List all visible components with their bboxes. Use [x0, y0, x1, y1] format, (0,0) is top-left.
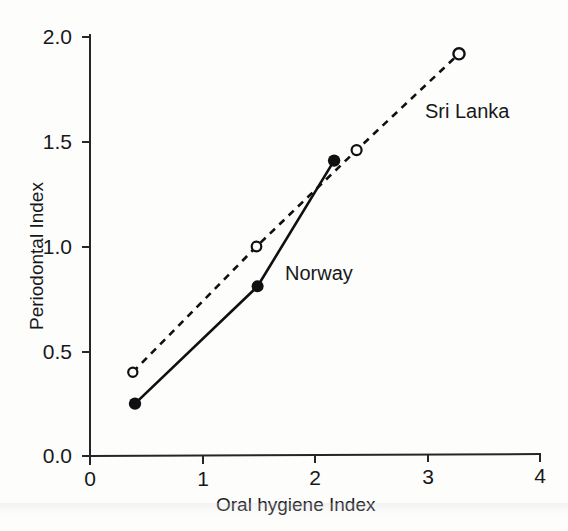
y-tick-label-0-5: 0.5 [14, 340, 72, 364]
y-tick-label-1-5: 1.5 [14, 130, 72, 154]
y-axis-title: Periodontal Index [26, 182, 48, 330]
data-point-norway-3 [328, 154, 340, 166]
series-annotation-sri-lanka: Sri Lanka [425, 100, 510, 123]
figure-container: 2.0 1.5 1.0 0.5 0.0 0 1 2 3 4 Periodonta… [0, 0, 568, 531]
data-point-sri-lanka-2 [252, 242, 262, 252]
data-point-norway-1 [129, 397, 141, 409]
x-tick-label-2: 2 [300, 466, 330, 490]
data-point-norway-2 [252, 280, 264, 292]
data-point-sri-lanka-3 [352, 145, 362, 155]
x-tick-label-0: 0 [75, 467, 105, 491]
series-annotation-norway: Norway [285, 262, 353, 285]
data-point-sri-lanka-1 [128, 368, 137, 377]
y-tick-label-0-0: 0.0 [14, 444, 72, 468]
chart-plot-area [0, 0, 568, 531]
series-line-sri-lanka [133, 54, 459, 372]
x-tick-label-1: 1 [188, 467, 218, 491]
x-tick-label-3: 3 [413, 465, 443, 489]
data-point-sri-lanka-4 [453, 48, 464, 59]
x-tick-label-4: 4 [525, 464, 555, 488]
y-tick-label-2-0: 2.0 [14, 25, 72, 49]
y-axis-ticks [82, 37, 90, 456]
x-axis-title: Oral hygiene Index [216, 494, 376, 516]
